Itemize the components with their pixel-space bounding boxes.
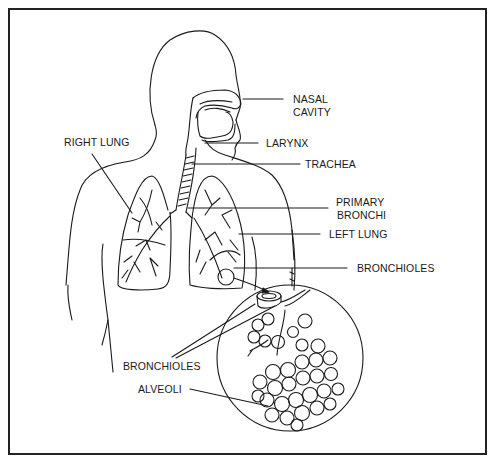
respiratory-illustration bbox=[0, 0, 495, 465]
left-lung-shape bbox=[189, 176, 244, 289]
label-larynx: LARYNX bbox=[266, 137, 308, 150]
alveoli-magnified-view bbox=[217, 278, 363, 431]
right-lung-shape bbox=[118, 176, 171, 290]
label-nasal-cavity-line1: NASAL bbox=[293, 93, 328, 106]
label-nasal-cavity-line2: CAVITY bbox=[293, 106, 331, 119]
label-right-lung: RIGHT LUNG bbox=[64, 136, 130, 149]
body-outline bbox=[66, 31, 295, 372]
arm-mark bbox=[290, 268, 294, 286]
label-primary-bronchi-line2: BRONCHI bbox=[337, 209, 386, 222]
nasal-cavity-shape bbox=[186, 90, 241, 155]
label-bronchioles-right: BRONCHIOLES bbox=[357, 262, 435, 275]
label-bronchioles-left: BRONCHIOLES bbox=[123, 360, 201, 373]
label-trachea: TRACHEA bbox=[305, 158, 356, 171]
label-left-lung: LEFT LUNG bbox=[329, 228, 387, 241]
label-primary-bronchi-line1: PRIMARY bbox=[336, 196, 384, 209]
label-alveoli: ALVEOLI bbox=[138, 383, 182, 396]
